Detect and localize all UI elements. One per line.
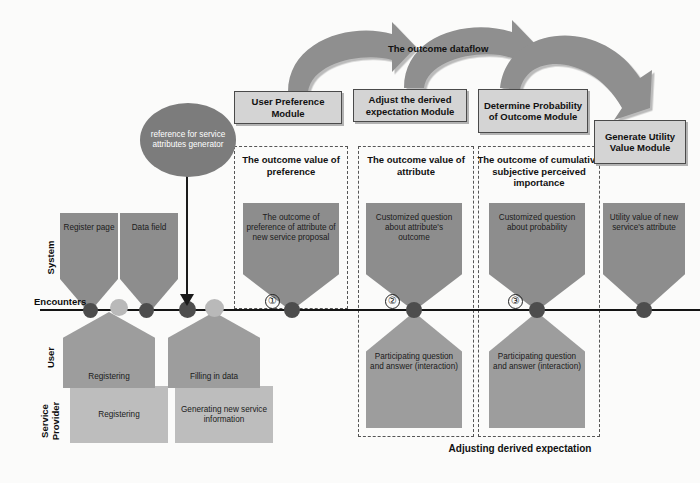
user-shape-registering[interactable]: Registering [63, 312, 155, 388]
dataflow-label: The outcome dataflow [388, 43, 488, 54]
shape-label: Utility value of new service's attribute [603, 213, 685, 233]
module-label: Determine Probability of Outcome Module [482, 100, 584, 123]
lane-text: User [45, 347, 56, 368]
marker-text: ③ [511, 295, 520, 306]
lane-label-user: User [45, 332, 56, 384]
lane-label-encounters: Encounters [34, 296, 86, 307]
encounter-marker-1: ① [265, 294, 280, 309]
encounter-dot[interactable] [406, 302, 422, 318]
scan-artifact-top [170, 8, 181, 28]
encounter-dot[interactable] [205, 299, 224, 317]
shape-label: Registering [70, 410, 168, 420]
lane-text-line1: Service [39, 404, 50, 438]
module-label: Adjust the derived expectation Module [357, 94, 463, 117]
lane-label-service-provider: Service Provider [39, 387, 61, 455]
module-determine-probability[interactable]: Determine Probability of Outcome Module [478, 89, 588, 133]
shape-label: Data field [120, 223, 178, 233]
encounter-dot[interactable] [284, 302, 300, 318]
shape-label: Participating question and answer (inter… [489, 352, 585, 372]
system-shape-utility-value-attribute[interactable]: Utility value of new service's attribute [603, 203, 685, 311]
dashgroup-title-text: The outcome value of attribute [367, 154, 465, 177]
bottom-caption: Adjusting derived expectation [370, 443, 670, 454]
lane-text: Encounters [34, 296, 86, 307]
encounter-dot[interactable] [529, 302, 545, 318]
marker-text: ② [388, 295, 397, 306]
shape-label: Registering [63, 372, 155, 382]
lane-label-system: System [45, 232, 56, 284]
shape-label: Customized question about probability [489, 213, 585, 233]
reference-node-label: reference for service attributes generat… [140, 130, 236, 150]
reference-connector-line [186, 176, 188, 299]
shape-label: Filling in data [168, 372, 260, 382]
encounter-marker-2: ② [385, 294, 400, 309]
module-generate-utility-value[interactable]: Generate Utility Value Module [594, 120, 686, 164]
shape-label: Register page [60, 223, 118, 233]
user-shape-filling-in-data[interactable]: Filling in data [168, 312, 260, 388]
shape-label: The outcome of preference of attribute o… [243, 213, 339, 243]
dashgroup-title: The outcome of cumulative subjective per… [476, 154, 602, 189]
lane-text: System [45, 241, 56, 275]
dashgroup-title-text: The outcome value of preference [242, 154, 340, 177]
module-label: Generate Utility Value Module [598, 131, 682, 154]
provider-shape-registering[interactable]: Registering [70, 386, 168, 443]
diagram-canvas: The outcome dataflow User Preference Mod… [0, 0, 700, 483]
system-shape-data-field[interactable]: Data field [120, 213, 178, 313]
shape-label: Generating new service information [175, 405, 273, 425]
encounter-dot[interactable] [139, 303, 154, 318]
dashgroup-title: The outcome value of preference [234, 154, 348, 177]
module-label: User Preference Module [238, 96, 338, 119]
module-adjust-derived-expectation[interactable]: Adjust the derived expectation Module [353, 89, 467, 122]
dashgroup-title-text: The outcome of cumulative subjective per… [478, 154, 601, 188]
provider-shape-generating-new-service-info[interactable]: Generating new service information [175, 386, 273, 443]
shape-label: Participating question and answer (inter… [366, 352, 462, 372]
shape-label: Customized question about attribute's ou… [366, 213, 462, 243]
module-user-preference[interactable]: User Preference Module [234, 91, 342, 124]
marker-text: ① [268, 295, 277, 306]
encounter-marker-3: ③ [508, 294, 523, 309]
bottom-caption-text: Adjusting derived expectation [449, 443, 592, 454]
dashgroup-title: The outcome value of attribute [358, 154, 474, 177]
reference-arrowhead-icon [180, 294, 194, 306]
lane-text-line2: Provider [50, 402, 61, 441]
reference-node[interactable]: reference for service attributes generat… [140, 103, 236, 177]
encounter-dot[interactable] [110, 299, 128, 316]
encounter-dot[interactable] [636, 302, 652, 318]
